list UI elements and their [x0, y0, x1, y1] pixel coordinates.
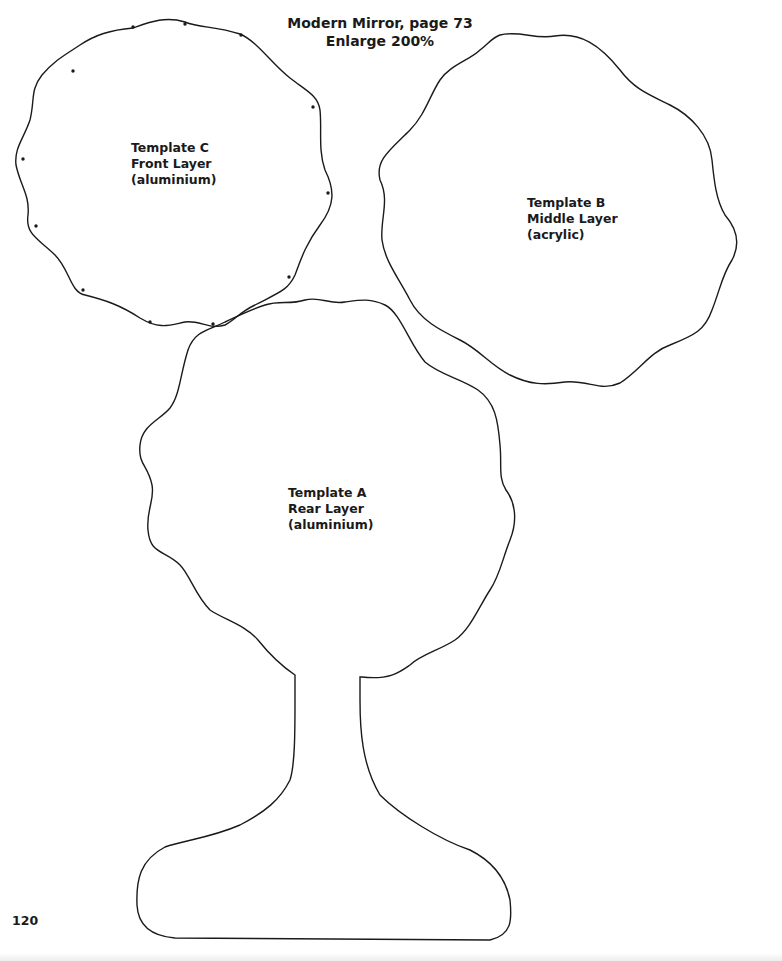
template-a-layer: Rear Layer — [288, 501, 373, 517]
template-a-label: Template A Rear Layer (aluminium) — [288, 485, 373, 533]
template-c-material: (aluminium) — [131, 172, 216, 188]
template-a-material: (aluminium) — [288, 517, 373, 533]
title-line-2: Enlarge 200% — [270, 32, 490, 50]
template-shapes — [0, 0, 782, 961]
title-line-1: Modern Mirror, page 73 — [270, 14, 490, 32]
template-b-label: Template B Middle Layer (acrylic) — [527, 195, 618, 243]
page-number: 120 — [12, 913, 38, 928]
template-a-outline — [137, 299, 515, 940]
page-title: Modern Mirror, page 73 Enlarge 200% — [270, 14, 490, 50]
template-c-label: Template C Front Layer (aluminium) — [131, 140, 216, 188]
template-c-name: Template C — [131, 140, 216, 156]
template-b-material: (acrylic) — [527, 227, 618, 243]
template-b-layer: Middle Layer — [527, 211, 618, 227]
page-edge-shadow — [0, 953, 782, 961]
template-a-name: Template A — [288, 485, 373, 501]
template-c-layer: Front Layer — [131, 156, 216, 172]
template-b-name: Template B — [527, 195, 618, 211]
